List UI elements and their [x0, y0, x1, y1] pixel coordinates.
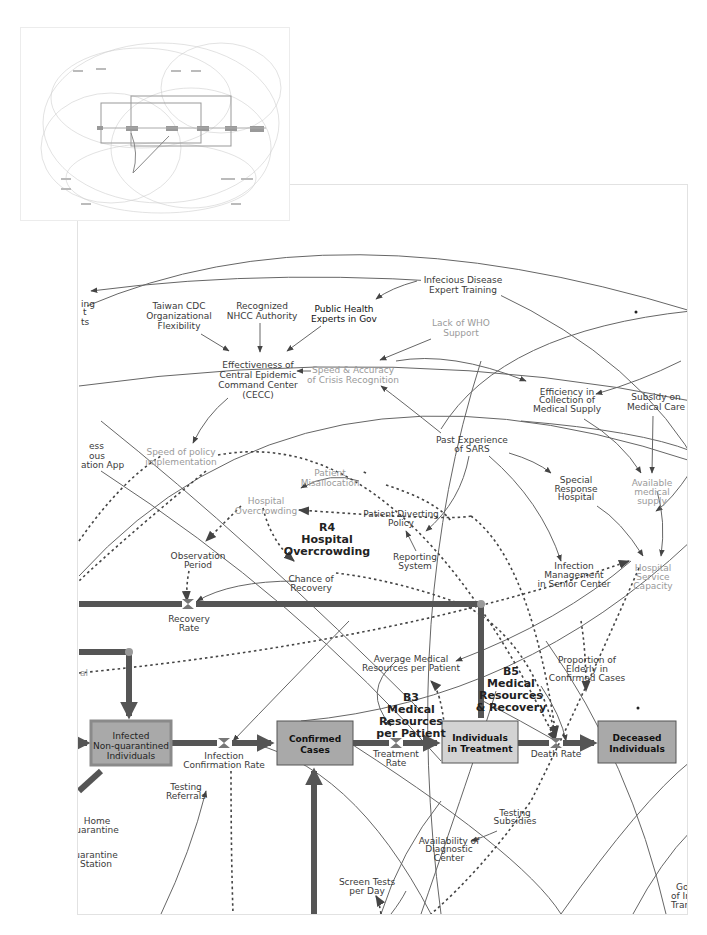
- svg-text:Expert Training: Expert Training: [429, 285, 497, 295]
- svg-text:of Crisis Recognition: of Crisis Recognition: [307, 375, 399, 385]
- node-testing-subsidies[interactable]: Testing Subsidies: [494, 808, 537, 826]
- node-speed-accuracy[interactable]: Speed & Accuracy of Crisis Recognition: [307, 365, 399, 385]
- svg-text:Individuals: Individuals: [609, 744, 665, 754]
- node-patient-diverting[interactable]: Patient Diverting Policy: [363, 509, 439, 528]
- node-hospital-service-capacity[interactable]: Hospital Service Capacity: [633, 563, 673, 591]
- stock-deceased-individuals[interactable]: Deceased Individuals: [598, 721, 676, 763]
- svg-text:Non-quarantined: Non-quarantined: [93, 741, 169, 751]
- thumbnail-diagram: [21, 28, 289, 220]
- node-infection-confirmation-rate[interactable]: Infection Confirmation Rate: [183, 751, 265, 770]
- stock-confirmed-cases[interactable]: Confirmed Cases: [277, 721, 353, 765]
- cloud-source: [125, 648, 133, 656]
- stock-infected[interactable]: Infected Non-quarantined Individuals: [91, 721, 171, 765]
- node-diagnostic-center[interactable]: Availability of Diagnostic Center: [419, 836, 480, 863]
- node-infectious-training[interactable]: Infecious Disease Expert Training: [421, 274, 503, 296]
- svg-text:Confirmed: Confirmed: [289, 734, 341, 744]
- svg-text:& Recovery: & Recovery: [476, 701, 547, 714]
- svg-text:Speed & Accuracy: Speed & Accuracy: [312, 365, 395, 375]
- svg-text:in Senior Center: in Senior Center: [538, 579, 611, 589]
- svg-text:Deceased: Deceased: [613, 733, 662, 743]
- node-past-sars[interactable]: Past Experience of SARS: [436, 435, 508, 454]
- svg-text:Capacity: Capacity: [633, 581, 673, 591]
- svg-text:per Day: per Day: [349, 886, 385, 896]
- node-chance-of-recovery[interactable]: Chance of Recovery: [288, 574, 334, 593]
- node-efficiency-supply[interactable]: Efficiency in Collection of Medical Supp…: [533, 387, 602, 414]
- overview-thumbnail[interactable]: [20, 27, 290, 221]
- svg-text:Individuals: Individuals: [107, 751, 156, 761]
- svg-text:System: System: [398, 561, 432, 571]
- node-left-app[interactable]: ess ous ation App: [81, 441, 124, 470]
- svg-text:Death Rate: Death Rate: [531, 749, 582, 759]
- node-available-supply[interactable]: Available medical supply: [632, 478, 673, 506]
- node-cecc-effectiveness[interactable]: Effectiveness of Central Epidemic Comman…: [218, 360, 298, 400]
- loop-b3: B3 Medical Resources per Patient: [376, 691, 445, 740]
- svg-text:Subsidy on: Subsidy on: [631, 392, 680, 402]
- svg-text:Recognized: Recognized: [236, 301, 288, 311]
- svg-text:Taiwan CDC: Taiwan CDC: [152, 301, 206, 311]
- svg-text:(CECC): (CECC): [242, 390, 274, 400]
- svg-text:Support: Support: [443, 328, 479, 338]
- node-proportion-elderly[interactable]: Proportion of Elderly in Confirmed Cases: [549, 655, 626, 683]
- loop-r4: R4 Hospital Overcrowding: [284, 521, 370, 558]
- node-testing-referrals[interactable]: Testing Referrals: [166, 782, 206, 801]
- svg-text:Recovery: Recovery: [290, 583, 332, 593]
- node-quarantine-station[interactable]: uarantine Station: [78, 850, 118, 869]
- svg-text:t: t: [83, 307, 87, 317]
- svg-text:Effectiveness of: Effectiveness of: [222, 360, 294, 370]
- svg-text:al: al: [80, 668, 88, 678]
- node-infection-management[interactable]: Infection Management in Senior Center: [538, 561, 611, 589]
- svg-text:Lack of WHO: Lack of WHO: [432, 318, 490, 328]
- svg-text:Misallocation: Misallocation: [301, 478, 360, 488]
- node-lack-of-who-support[interactable]: Lack of WHO Support: [432, 318, 490, 338]
- svg-text:Resources per Patient: Resources per Patient: [362, 663, 460, 673]
- node-public-health-experts[interactable]: Public Health Experts in Gov: [311, 304, 378, 324]
- node-home-quarantine[interactable]: Home uarantine: [78, 816, 119, 835]
- cloud-source: [477, 600, 485, 608]
- svg-text:Confirmation Rate: Confirmation Rate: [183, 760, 265, 770]
- node-left-ing[interactable]: ing t ts: [81, 299, 95, 327]
- svg-text:Command Center: Command Center: [218, 380, 298, 390]
- node-recovery-rate[interactable]: Recovery Rate: [168, 614, 210, 633]
- node-gov-edge[interactable]: Gov of In Tran: [670, 882, 687, 910]
- valve-infection-confirmation: [218, 738, 230, 748]
- svg-text:Station: Station: [80, 859, 112, 869]
- node-special-response[interactable]: Special Response Hospital: [554, 475, 598, 502]
- svg-text:Public Health: Public Health: [314, 304, 373, 314]
- node-treatment-rate[interactable]: Treatment Rate: [372, 749, 419, 768]
- svg-text:Experts in Gov: Experts in Gov: [311, 314, 378, 324]
- causal-loop-diagram: Infected Non-quarantined Individuals Con…: [78, 185, 687, 914]
- diagram-canvas[interactable]: Infected Non-quarantined Individuals Con…: [77, 184, 688, 915]
- node-nhcc-authority[interactable]: Recognized NHCC Authority: [227, 301, 298, 321]
- node-speed-policy[interactable]: Speed of policy implementation: [145, 447, 216, 467]
- stray-dot: [635, 311, 638, 314]
- svg-text:per Patient: per Patient: [376, 727, 445, 740]
- node-death-rate[interactable]: Death Rate: [531, 749, 582, 759]
- svg-text:in Treatment: in Treatment: [448, 744, 514, 754]
- svg-text:Hospital: Hospital: [558, 492, 595, 502]
- node-observation-period[interactable]: Observation Period: [171, 551, 226, 570]
- node-screen-tests[interactable]: Screen Tests per Day: [339, 877, 396, 896]
- node-reporting-system[interactable]: Reporting System: [393, 552, 437, 571]
- svg-text:of SARS: of SARS: [454, 444, 490, 454]
- svg-text:Speed of policy: Speed of policy: [146, 447, 216, 457]
- node-left-al[interactable]: al: [80, 668, 88, 678]
- node-taiwan-cdc[interactable]: Taiwan CDC Organizational Flexibility: [146, 301, 212, 331]
- svg-text:Rate: Rate: [386, 758, 407, 768]
- svg-text:implementation: implementation: [145, 457, 216, 467]
- stock-individuals-in-treatment[interactable]: Individuals in Treatment: [442, 721, 518, 763]
- svg-text:Flexibility: Flexibility: [158, 321, 202, 331]
- loop-b5: B5 Medical Resources & Recovery: [476, 665, 547, 714]
- stray-dot: [637, 707, 640, 710]
- svg-text:Cases: Cases: [300, 745, 330, 755]
- svg-text:Medical Supply: Medical Supply: [533, 404, 602, 414]
- svg-text:Subsidies: Subsidies: [494, 816, 537, 826]
- node-subsidy-medical-care[interactable]: Subsidy on Medical Care: [627, 392, 686, 412]
- svg-text:Referrals: Referrals: [166, 791, 206, 801]
- svg-text:Tran: Tran: [670, 900, 687, 910]
- svg-text:Infecious Disease: Infecious Disease: [424, 275, 503, 285]
- node-avg-medical-resources[interactable]: Average Medical Resources per Patient: [362, 654, 460, 673]
- node-patient-misallocation[interactable]: Patient Misallocation: [301, 468, 360, 488]
- svg-text:Organizational: Organizational: [146, 311, 212, 321]
- valve-recovery-rate: [182, 599, 194, 609]
- node-hospital-overcrowding[interactable]: Hospital Overcrowding: [235, 496, 297, 516]
